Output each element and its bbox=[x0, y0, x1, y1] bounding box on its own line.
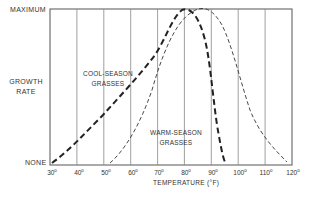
y-axis-title-rate: RATE bbox=[8, 88, 44, 95]
x-tick-60: 60o bbox=[128, 168, 138, 176]
x-tick-110: 110o bbox=[260, 168, 273, 176]
y-axis-title-growth: GROWTH bbox=[8, 78, 44, 85]
cool-season-label-line2: GRASSES bbox=[76, 79, 140, 89]
x-tick-90: 90o bbox=[208, 168, 218, 176]
x-tick-70: 70o bbox=[154, 168, 164, 176]
warm-season-label: WARM-SEASON GRASSES bbox=[141, 128, 211, 148]
x-tick-30: 30o bbox=[47, 168, 57, 176]
y-label-none: NONE bbox=[25, 159, 46, 166]
x-tick-80: 80o bbox=[181, 168, 191, 176]
x-tick-50: 50o bbox=[101, 168, 111, 176]
x-tick-100: 100o bbox=[233, 168, 246, 176]
x-tick-120: 120o bbox=[286, 168, 299, 176]
warm-season-label-line2: GRASSES bbox=[141, 138, 211, 148]
cool-season-label-line1: COOL-SEASON bbox=[76, 69, 140, 79]
warm-season-label-line1: WARM-SEASON bbox=[141, 128, 211, 138]
x-axis-title: TEMPERATURE (°F) bbox=[153, 179, 219, 186]
x-tick-40: 40o bbox=[74, 168, 84, 176]
y-label-maximum: MAXIMUM bbox=[10, 6, 46, 13]
cool-season-label: COOL-SEASON GRASSES bbox=[76, 69, 140, 89]
